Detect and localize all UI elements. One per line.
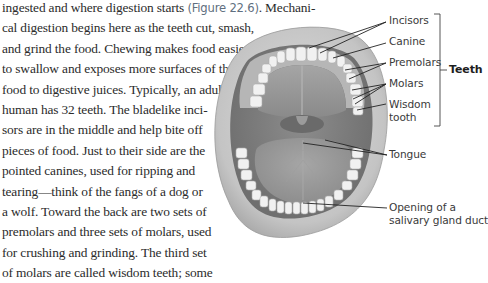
label-canine: Canine bbox=[389, 35, 425, 48]
text-line: for crushing and grinding. The third set bbox=[2, 243, 234, 263]
text-line: of molars are called wisdom teeth; some bbox=[2, 263, 234, 283]
label-incisors: Incisors bbox=[389, 14, 429, 27]
label-salivary-line2: salivary gland duct bbox=[389, 214, 488, 227]
label-salivary-line1: Opening of a bbox=[389, 201, 456, 214]
label-teeth-group: Teeth bbox=[449, 63, 483, 76]
label-premolars: Premolars bbox=[389, 56, 441, 69]
label-wisdom-tooth-line1: Wisdom bbox=[389, 98, 431, 111]
teeth-bracket bbox=[434, 14, 447, 126]
label-tongue: Tongue bbox=[389, 148, 426, 161]
label-wisdom-tooth-line2: tooth bbox=[389, 111, 417, 124]
label-molars: Molars bbox=[389, 77, 423, 90]
